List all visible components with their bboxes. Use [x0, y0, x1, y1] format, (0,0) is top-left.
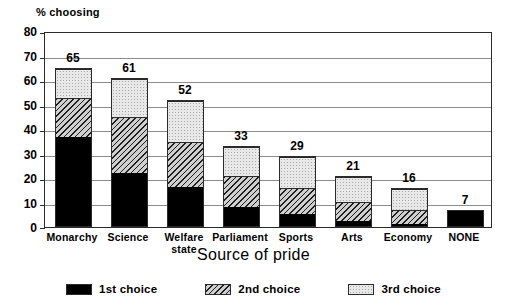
x-axis-label-line: Welfare — [152, 231, 216, 243]
bar-segment-2[interactable] — [112, 117, 147, 173]
stacked-bar[interactable] — [335, 176, 372, 227]
x-axis-tick-label: Monarchy — [40, 231, 104, 243]
x-axis-label-line: Arts — [320, 231, 384, 243]
bar-segment-3[interactable] — [224, 147, 259, 176]
bar-segment-2[interactable] — [168, 142, 203, 188]
bar-column[interactable]: 7 — [447, 31, 484, 227]
bar-segment-2[interactable] — [336, 202, 371, 221]
y-axis-tick-label: 50 — [11, 100, 37, 112]
light-dotted-swatch — [348, 284, 374, 295]
bar-segment-1[interactable] — [336, 221, 371, 226]
bar-segment-3[interactable] — [56, 69, 91, 98]
y-axis-tick-label: 0 — [11, 222, 37, 234]
x-axis-label-line: Parliament — [208, 231, 272, 243]
legend-label: 2nd choice — [238, 283, 300, 295]
bar-value-label: 7 — [435, 194, 496, 206]
legend-label: 1st choice — [99, 283, 157, 295]
y-axis-tick-label: 40 — [11, 124, 37, 136]
y-axis-label: % choosing — [36, 6, 100, 18]
x-axis-tick-label: Sports — [264, 231, 328, 243]
x-axis-title: Source of pride — [0, 246, 507, 264]
stacked-bar[interactable] — [55, 68, 92, 227]
bar-segment-1[interactable] — [280, 214, 315, 226]
bar-value-label: 52 — [155, 84, 216, 96]
bar-value-label: 21 — [323, 160, 384, 172]
x-axis-label-line: Monarchy — [40, 231, 104, 243]
bar-segment-1[interactable] — [448, 211, 483, 226]
bar-segment-2[interactable] — [280, 188, 315, 214]
plot-area: 656152332921167 — [44, 32, 492, 228]
legend-item[interactable]: 2nd choice — [205, 283, 300, 295]
bar-segment-1[interactable] — [112, 173, 147, 226]
legend-label: 3rd choice — [381, 283, 441, 295]
bar-value-label: 16 — [379, 172, 440, 184]
bar-segment-3[interactable] — [280, 157, 315, 188]
bar-segment-1[interactable] — [168, 187, 203, 226]
bar-segment-3[interactable] — [168, 101, 203, 142]
bar-column[interactable]: 65 — [55, 31, 92, 227]
y-axis-tick-label: 10 — [11, 198, 37, 210]
y-axis-tick — [40, 228, 45, 229]
x-axis-tick-label: Economy — [376, 231, 440, 243]
bar-segment-1[interactable] — [56, 137, 91, 227]
stacked-bar[interactable] — [111, 78, 148, 227]
bar-value-label: 65 — [43, 52, 104, 64]
y-axis-tick-label: 30 — [11, 149, 37, 161]
bar-segment-2[interactable] — [392, 210, 427, 224]
x-axis-label-line: Science — [96, 231, 160, 243]
bar-column[interactable]: 33 — [223, 31, 260, 227]
bar-value-label: 33 — [211, 130, 272, 142]
bar-segment-3[interactable] — [392, 189, 427, 210]
x-axis-label-line: NONE — [432, 231, 496, 243]
bar-segment-3[interactable] — [112, 79, 147, 118]
y-axis-tick-label: 80 — [11, 26, 37, 38]
bar-segment-1[interactable] — [392, 224, 427, 226]
stacked-bar[interactable] — [279, 156, 316, 227]
bar-series-group: 656152332921167 — [45, 33, 491, 227]
bar-column[interactable]: 29 — [279, 31, 316, 227]
bar-value-label: 61 — [99, 62, 160, 74]
bar-column[interactable]: 16 — [391, 31, 428, 227]
x-axis-tick-label: NONE — [432, 231, 496, 243]
x-axis-label-line: Economy — [376, 231, 440, 243]
bar-column[interactable]: 21 — [335, 31, 372, 227]
stacked-bar[interactable] — [447, 210, 484, 227]
bar-segment-3[interactable] — [336, 177, 371, 203]
bar-segment-1[interactable] — [224, 207, 259, 226]
x-axis-tick-label: Parliament — [208, 231, 272, 243]
legend-item[interactable]: 3rd choice — [348, 283, 441, 295]
x-axis-label-line: Sports — [264, 231, 328, 243]
x-axis-tick-label: Arts — [320, 231, 384, 243]
y-axis-tick-label: 20 — [11, 173, 37, 185]
diagonal-hatch-swatch — [205, 284, 231, 295]
x-axis-tick-label: Science — [96, 231, 160, 243]
bar-value-label: 29 — [267, 140, 328, 152]
solid-black-swatch — [66, 284, 92, 295]
bar-column[interactable]: 61 — [111, 31, 148, 227]
chart-legend: 1st choice2nd choice3rd choice — [0, 283, 507, 295]
stacked-bar[interactable] — [223, 146, 260, 227]
chart-figure: % choosing 656152332921167 0102030405060… — [0, 0, 507, 306]
bar-column[interactable]: 52 — [167, 31, 204, 227]
stacked-bar[interactable] — [391, 188, 428, 227]
stacked-bar[interactable] — [167, 100, 204, 227]
y-axis-tick-label: 60 — [11, 75, 37, 87]
y-axis-tick-label: 70 — [11, 51, 37, 63]
legend-item[interactable]: 1st choice — [66, 283, 157, 295]
bar-segment-2[interactable] — [224, 176, 259, 207]
bar-segment-2[interactable] — [56, 98, 91, 137]
